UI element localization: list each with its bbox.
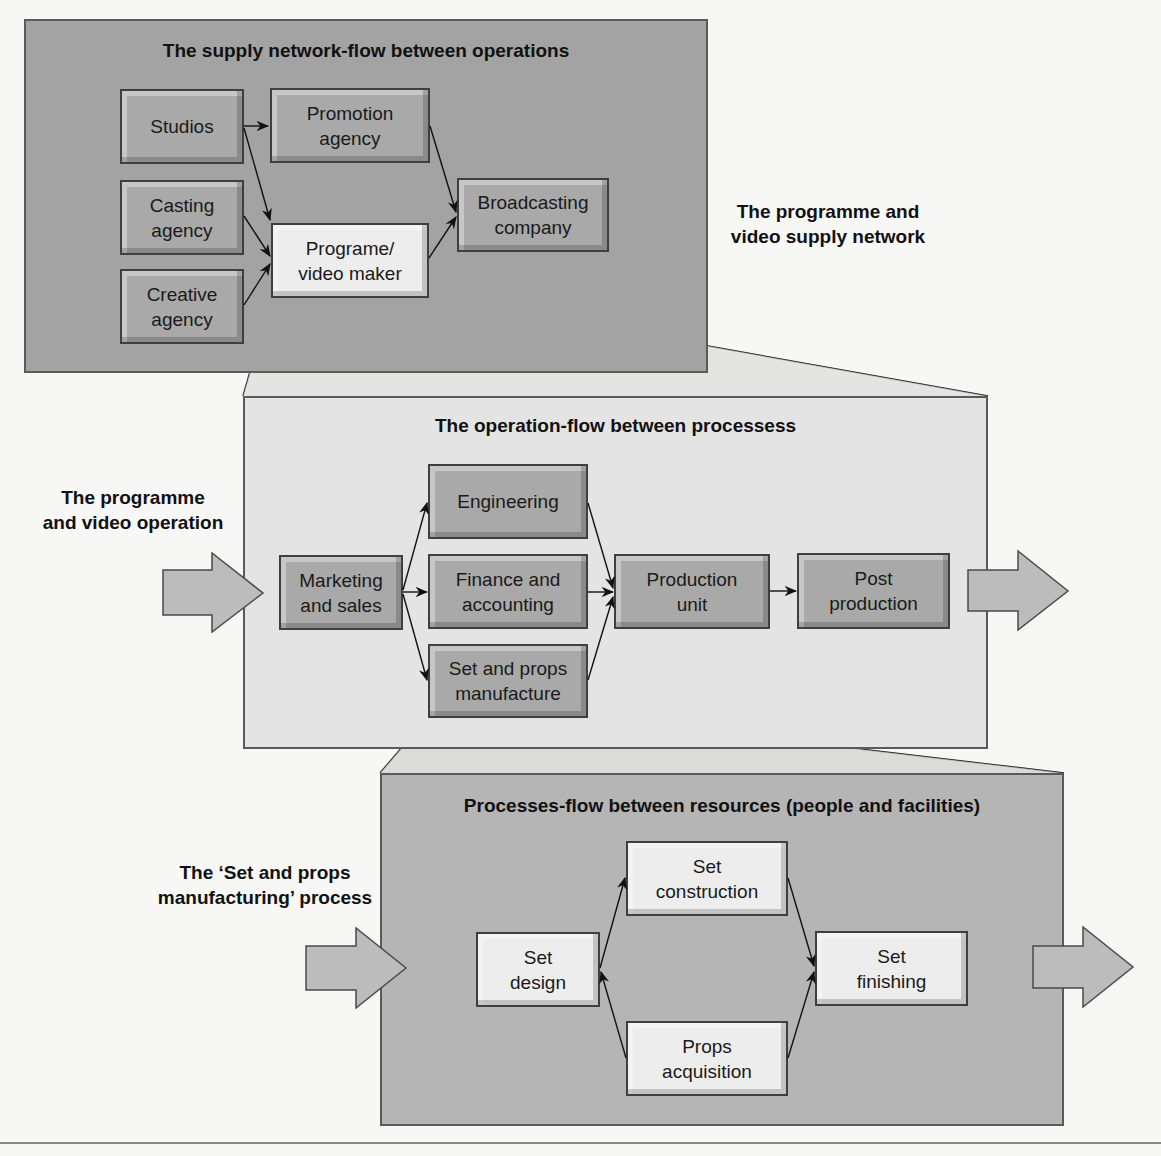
- node-marketing-and-sales[interactable]: Marketing and sales: [279, 555, 403, 630]
- node-studios[interactable]: Studios: [120, 89, 244, 164]
- node-production-unit[interactable]: Production unit: [614, 554, 770, 629]
- node-post-production[interactable]: Post production: [797, 553, 950, 629]
- node-promotion-agency[interactable]: Promotion agency: [270, 88, 430, 163]
- operation-title: The operation-flow between processess: [245, 415, 986, 437]
- node-creative-agency[interactable]: Creative agency: [120, 269, 244, 344]
- process-title: Processes-flow between resources (people…: [382, 795, 1062, 817]
- supply-network-title: The supply network-flow between operatio…: [26, 40, 706, 62]
- node-broadcasting-company[interactable]: Broadcasting company: [457, 178, 609, 252]
- node-finance-and-accounting[interactable]: Finance and accounting: [428, 554, 588, 629]
- page-divider: [0, 1142, 1161, 1144]
- node-programme-video-maker[interactable]: Programe/ video maker: [271, 223, 429, 298]
- node-set-finishing[interactable]: Set finishing: [815, 931, 968, 1006]
- node-set-and-props-manufacture[interactable]: Set and props manufacture: [428, 644, 588, 718]
- node-engineering[interactable]: Engineering: [428, 464, 588, 539]
- process-side-label: The ‘Set and props manufacturing’ proces…: [140, 835, 390, 910]
- supply-network-side-label: The programme and video supply network: [718, 174, 938, 249]
- node-props-acquisition[interactable]: Props acquisition: [626, 1021, 788, 1096]
- node-set-design[interactable]: Set design: [476, 932, 600, 1007]
- node-casting-agency[interactable]: Casting agency: [120, 180, 244, 255]
- node-set-construction[interactable]: Set construction: [626, 841, 788, 916]
- operation-side-label: The programme and video operation: [24, 460, 242, 535]
